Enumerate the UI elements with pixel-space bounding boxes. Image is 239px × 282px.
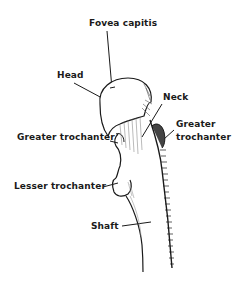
lesser-trochanter-outline (113, 178, 132, 196)
label-lesser-trochanter: Lesser trochanter (14, 180, 106, 192)
leader-shaft (122, 222, 151, 226)
leader-fovea-capitis (107, 31, 112, 89)
label-fovea-capitis: Fovea capitis (89, 17, 157, 29)
leader-greater-trochanter-right (164, 130, 174, 139)
greater-trochanter-right-shape (152, 124, 165, 148)
label-shaft: Shaft (91, 220, 119, 232)
label-greater-trochanter-left: Greater trochanter (17, 131, 115, 143)
leader-head (74, 83, 102, 98)
femoral-head (100, 78, 152, 136)
label-neck: Neck (163, 91, 188, 103)
shaft-left-outline (126, 196, 143, 272)
femur-diagram: Fovea capitis Head Neck Greater trochant… (0, 0, 239, 282)
greater-trochanter-left-outline (115, 134, 121, 178)
label-greater-trochanter-right-1: Greater (176, 118, 216, 130)
label-greater-trochanter-right-2: trochanter (176, 131, 231, 143)
label-head: Head (57, 69, 84, 81)
